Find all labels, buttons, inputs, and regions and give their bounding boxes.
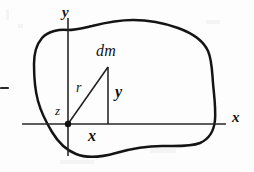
moment-of-inertia-figure: y x dm r y x z [0, 0, 254, 172]
mass-element-label-dm: dm [96, 43, 116, 59]
radius-label-r: r [76, 81, 81, 95]
body-outline [34, 20, 215, 157]
origin-point-marker [65, 121, 71, 127]
figure-canvas [0, 0, 254, 172]
radius-line-r [68, 67, 108, 124]
horizontal-leg-label-x: x [88, 128, 96, 144]
x-axis-label: x [232, 110, 240, 125]
y-axis-label: y [62, 5, 69, 20]
vertical-leg-label-y: y [115, 84, 122, 100]
origin-label-z: z [55, 104, 60, 117]
